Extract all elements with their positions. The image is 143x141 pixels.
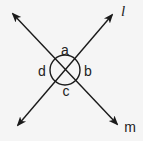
- angle-label-a: a: [61, 42, 69, 58]
- angle-label-c: c: [63, 83, 70, 99]
- line-label-l: l: [121, 3, 125, 19]
- angle-label-d: d: [38, 63, 46, 79]
- line-label-m: m: [124, 119, 136, 135]
- angle-label-b: b: [84, 63, 92, 79]
- diagram-svg: a b c d l m: [0, 0, 143, 141]
- line-m: [13, 14, 117, 124]
- diagram-canvas: a b c d l m: [0, 0, 143, 141]
